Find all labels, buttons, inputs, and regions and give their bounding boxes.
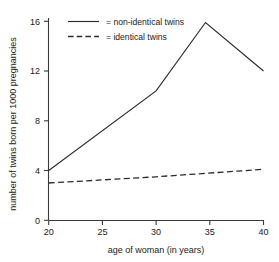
y-axis-title: number of twins born per 1000 pregnancie… [8,37,18,211]
chart-legend: = non-identical twins = identical twins [68,17,184,42]
x-tick-label: 35 [205,227,215,237]
x-axis-ticks [49,221,264,226]
chart-canvas: 16 12 8 4 0 20 25 30 35 40 = [0,0,279,262]
x-axis-tick-labels: 20 25 30 35 40 [44,227,269,237]
x-tick-label: 25 [97,227,107,237]
legend-label-identical-twins: = identical twins [106,32,167,42]
series-identical-twins [49,169,264,183]
legend-label-non-identical-twins: = non-identical twins [106,17,184,27]
y-tick-label: 0 [35,216,40,226]
y-tick-label: 12 [30,66,40,76]
x-tick-label: 40 [258,227,268,237]
y-axis-ticks [44,21,49,220]
x-tick-label: 20 [44,227,54,237]
y-axis-tick-labels: 16 12 8 4 0 [30,17,40,226]
y-tick-label: 8 [35,116,40,126]
y-tick-label: 4 [35,166,40,176]
series-non-identical-twins [49,23,264,171]
x-tick-label: 30 [151,227,161,237]
x-axis-title: age of woman (in years) [108,245,205,255]
twin-birth-rate-chart: 16 12 8 4 0 20 25 30 35 40 = [0,0,279,262]
y-tick-label: 16 [30,17,40,27]
